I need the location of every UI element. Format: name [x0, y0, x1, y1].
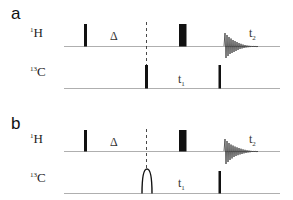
channel-label-1h: 1H [30, 131, 43, 146]
h-90-pulse [84, 24, 87, 47]
c-shaped-selective-pulse [142, 169, 152, 194]
h-180-pulse [179, 130, 187, 152]
panel-label-b: b [11, 114, 20, 133]
delay-t2: t2 [249, 132, 256, 148]
panel-a: a 1H 13C Δ t1 t2 [11, 4, 280, 89]
h-180-pulse [179, 24, 187, 47]
panel-b: b 1H 13C Δ t1 t2 [11, 114, 280, 194]
c-90-pulse-2 [219, 171, 222, 194]
channel-label-13c: 13C [30, 170, 46, 185]
h-90-pulse [84, 130, 87, 152]
delay-t1: t1 [178, 176, 185, 192]
c-90-pulse [145, 65, 148, 89]
c-90-pulse-2 [219, 65, 222, 89]
channel-label-13c: 13C [30, 64, 46, 79]
pulse-sequence-diagram: a 1H 13C Δ t1 t2 b 1H 13C [0, 0, 293, 200]
channel-label-1h: 1H [30, 25, 43, 40]
delay-delta: Δ [110, 29, 118, 43]
panel-label-a: a [11, 4, 21, 23]
delay-t2: t2 [249, 26, 256, 42]
delay-t1: t1 [178, 72, 185, 88]
delay-delta: Δ [110, 135, 118, 149]
